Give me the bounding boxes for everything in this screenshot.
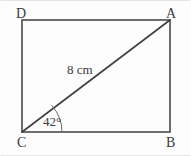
geometry-figure: D A B C 8 cm 42° bbox=[0, 0, 191, 156]
angle-value-label: 42° bbox=[43, 114, 61, 129]
vertex-label-a: A bbox=[166, 6, 177, 21]
vertex-label-d: D bbox=[16, 6, 26, 21]
vertex-label-c: C bbox=[17, 135, 26, 150]
diagonal-length-label: 8 cm bbox=[67, 62, 93, 77]
figure-svg: D A B C 8 cm 42° bbox=[0, 0, 191, 156]
vertex-label-b: B bbox=[166, 135, 175, 150]
